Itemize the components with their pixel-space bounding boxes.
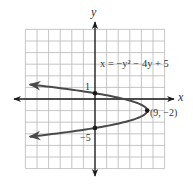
equation-label: x = −y² − 4y + 5: [100, 58, 169, 69]
parabola-graph: y x x = −y² − 4y + 5 1 −5 (9, −2): [0, 0, 193, 185]
vertex-label: (9, −2): [150, 107, 177, 119]
y-intercept-label-neg5: −5: [80, 132, 91, 143]
y-axis-label: y: [90, 5, 97, 19]
x-axis-label: x: [177, 90, 184, 104]
axes: [14, 22, 174, 176]
y-intercept-label-1: 1: [85, 81, 90, 92]
